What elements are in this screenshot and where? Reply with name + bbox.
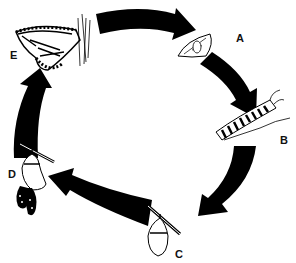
stage-label-d: D bbox=[8, 168, 16, 180]
arrow-e-to-a bbox=[96, 8, 196, 40]
arrow-c-to-d bbox=[48, 168, 152, 226]
arrow-a-to-b bbox=[200, 52, 257, 118]
stage-label-e: E bbox=[10, 49, 17, 61]
arrow-b-to-c bbox=[198, 146, 256, 216]
life-cycle-diagram: A B C D E bbox=[0, 0, 296, 263]
stage-label-b: B bbox=[280, 134, 288, 146]
egg-on-leaf-illustration bbox=[178, 34, 211, 57]
stage-label-c: C bbox=[175, 248, 183, 260]
arrow-d-to-e bbox=[14, 68, 52, 158]
butterfly-adult-illustration bbox=[16, 14, 90, 70]
stage-label-a: A bbox=[236, 32, 244, 44]
cycle-arrows bbox=[0, 0, 296, 263]
